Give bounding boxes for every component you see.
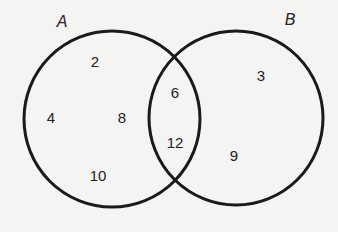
set-a-label: A	[57, 14, 68, 30]
set-b-circle	[149, 31, 323, 205]
region-intersection-value: 6	[171, 85, 179, 100]
region-a-value: 4	[47, 110, 55, 125]
region-intersection-value: 12	[167, 135, 184, 150]
set-b-label: B	[285, 12, 296, 28]
region-a-value: 10	[90, 168, 107, 183]
region-b-value: 3	[257, 68, 265, 83]
region-a-value: 8	[118, 110, 126, 125]
venn-diagram: A B 2 4 8 10 6 12 3 9	[0, 0, 338, 232]
region-a-value: 2	[91, 54, 99, 69]
region-b-value: 9	[230, 148, 238, 163]
